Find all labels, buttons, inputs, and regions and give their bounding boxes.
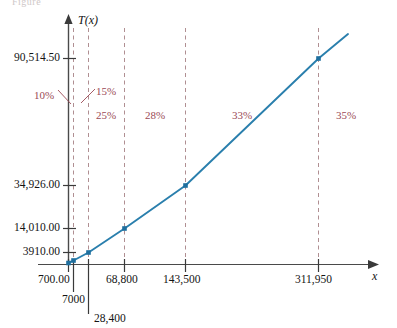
data-point-143500 [183,183,188,188]
x-tick-label-7000: 7000 [62,294,85,306]
x-axis-arrowhead [368,260,379,269]
y-axis-arrowhead [64,14,72,24]
y-axis-name-label: T(x) [78,14,98,26]
data-point-7000 [71,258,76,263]
bracket-label-25-percent: 25% [96,110,116,121]
x-tick-group [69,259,319,314]
x-tick-label-68800: 68,800 [106,274,138,286]
x-tick-label-143500: 143,500 [163,274,200,286]
x-tick-label-28400: 28,400 [94,313,126,325]
y-tick-label-90514: 90,514.50 [0,52,60,64]
x-axis-name-label: x [372,270,377,282]
bracket-label-15-percent: 15% [96,86,116,97]
tax-curve [69,34,349,263]
y-tick-label-14010: 14,010.00 [0,222,60,234]
bracket-label-28-percent: 28% [145,110,165,121]
x-tick-label-311950: 311,950 [295,274,332,286]
data-point-68800 [122,226,127,231]
data-point-700 [66,261,71,266]
x-tick-label-700: 700.00 [38,274,70,286]
guide-line-group [74,28,319,262]
data-point-311950 [316,56,321,61]
tax-function-figure: Figure [0,0,397,328]
bracket-label-10-percent: 10% [34,90,54,101]
y-tick-label-3910: 3910.00 [0,246,60,258]
data-point-28400 [86,250,91,255]
bracket-label-33-percent: 33% [232,110,252,121]
y-tick-group [63,59,76,253]
y-tick-label-34926: 34,926.00 [0,179,60,191]
bracket-label-35-percent: 35% [336,110,356,121]
